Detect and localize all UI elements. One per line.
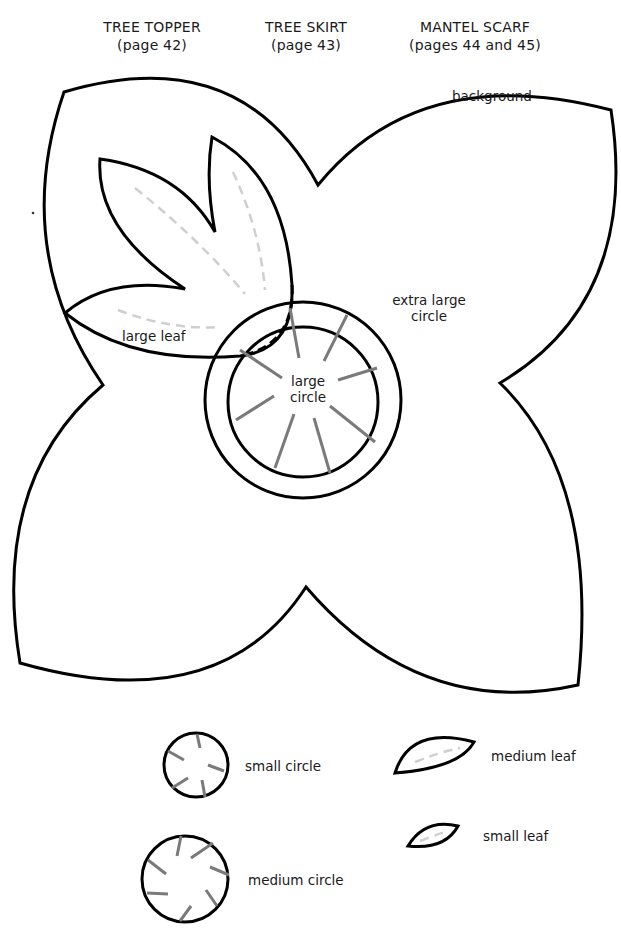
large-leaf-vein (118, 310, 218, 327)
label-medium-leaf: medium leaf (491, 748, 576, 764)
label-background: background (452, 88, 532, 104)
large-leaf-vein (135, 188, 245, 294)
small-circle-spokes (168, 734, 224, 797)
small-leaf-shape (408, 824, 458, 846)
label-large-leaf: large leaf (122, 328, 186, 344)
label-small-circle: small circle (245, 758, 321, 774)
label-line: large (281, 373, 335, 389)
large-leaf-vein (233, 172, 265, 290)
label-line: circle (384, 308, 474, 324)
label-extra-large-circle: extra large circle (384, 292, 474, 324)
pattern-canvas (0, 0, 621, 937)
medium-circle-shape (142, 836, 228, 922)
stray-dot (32, 212, 35, 215)
label-small-leaf: small leaf (483, 828, 548, 844)
label-line: extra large (384, 292, 474, 308)
label-medium-circle: medium circle (248, 872, 344, 888)
label-large-circle: large circle (281, 373, 335, 405)
label-line: circle (281, 389, 335, 405)
